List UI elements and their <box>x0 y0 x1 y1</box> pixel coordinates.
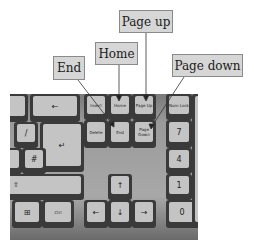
num-lock-key: Num Lock <box>166 94 192 120</box>
windows-key: ⊞ <box>12 200 42 228</box>
ctrl-key: Ctrl <box>42 200 74 228</box>
slash-key: / <box>14 122 38 148</box>
shift-key: ⇧ <box>10 174 84 200</box>
enter-key: ↵ <box>40 122 84 172</box>
page-up-label: Page up <box>119 10 173 33</box>
key-partial <box>10 94 28 122</box>
end-key: End <box>108 120 132 148</box>
keyboard-photo: ← / ↵ # ⇧ ⊞ Ctrl Insert Home Page Up Del… <box>10 94 198 240</box>
hash-key: # <box>22 148 46 174</box>
page-down-label: Page down <box>172 54 243 77</box>
key-partial <box>10 148 22 174</box>
page-down-key: Page Down <box>132 120 156 148</box>
left-arrow-key: ← <box>84 200 108 228</box>
end-label: End <box>53 56 85 80</box>
numpad-edge <box>192 94 198 228</box>
numpad-7-key: 7 <box>166 120 192 148</box>
home-key: Home <box>108 94 132 120</box>
numpad-4-key: 4 <box>166 148 192 174</box>
up-arrow-key: ↑ <box>108 174 132 200</box>
down-arrow-key: ↓ <box>108 200 132 228</box>
page-up-key: Page Up <box>132 94 156 120</box>
numpad-1-key: 1 <box>166 174 192 200</box>
home-label: Home <box>95 42 138 65</box>
right-arrow-key: → <box>132 200 156 228</box>
delete-key: Delete <box>84 120 108 148</box>
insert-key: Insert <box>84 94 108 120</box>
backspace-key: ← <box>30 94 80 122</box>
